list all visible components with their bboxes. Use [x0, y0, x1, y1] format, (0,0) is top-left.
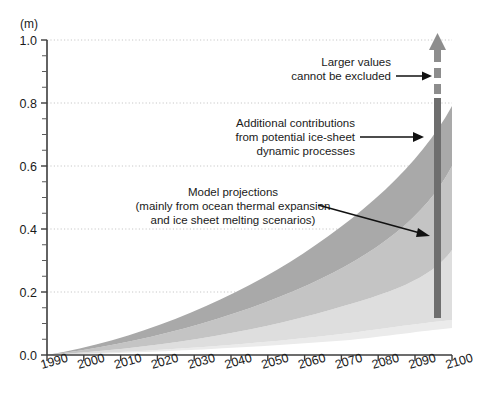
- x-tick-label-2090: 2090: [407, 351, 438, 372]
- y-tick-label-0.8: 0.8: [20, 97, 37, 111]
- projection-bands: [47, 106, 452, 355]
- model-projections-line-1: Model projections: [188, 186, 278, 198]
- additional-contributions-arrow-icon: [360, 132, 424, 142]
- y-tick-label-0.2: 0.2: [20, 286, 37, 300]
- additional-contributions-line-3: dynamic processes: [257, 145, 356, 157]
- x-tick-label-2030: 2030: [186, 351, 217, 372]
- x-tick-label-2070: 2070: [333, 351, 364, 372]
- x-tick-label-2050: 2050: [260, 351, 291, 372]
- additional-contributions-line-1: Additional contributions: [236, 117, 355, 129]
- sea-level-rise-projection-figure: (m) 1.0 0.8 0.6 0.4 0.2 0.0 1990 2000 20…: [0, 0, 477, 403]
- x-tick-label-2100: 2100: [444, 351, 475, 372]
- additional-contributions-annotation: Additional contributions from potential …: [235, 117, 424, 157]
- y-tick-label-0.4: 0.4: [20, 223, 37, 237]
- range-bar: [434, 98, 441, 318]
- y-tick-label-0.6: 0.6: [20, 160, 37, 174]
- larger-values-line-1: Larger values: [321, 56, 391, 68]
- y-tick-label-1.0: 1.0: [20, 34, 37, 48]
- x-tick-label-2010: 2010: [113, 351, 144, 372]
- x-tick-label-1990: 1990: [39, 351, 70, 372]
- larger-values-annotation: Larger values cannot be excluded: [291, 56, 432, 82]
- chart-canvas: (m) 1.0 0.8 0.6 0.4 0.2 0.0 1990 2000 20…: [0, 0, 477, 403]
- range-bar-up-arrow-icon: [429, 33, 446, 62]
- larger-values-line-2: cannot be excluded: [291, 70, 391, 82]
- x-tick-label-2020: 2020: [149, 351, 180, 372]
- larger-values-arrow-icon: [396, 72, 432, 81]
- x-tick-label-2060: 2060: [297, 351, 328, 372]
- model-projections-line-2: (mainly from ocean thermal expansion: [136, 200, 331, 212]
- y-tick-label-0.0: 0.0: [20, 349, 37, 363]
- y-axis-unit-label: (m): [20, 17, 38, 31]
- x-tick-label-2080: 2080: [370, 351, 401, 372]
- range-bar-dash-1: [434, 84, 441, 94]
- x-tick-labels: 1990 2000 2010 2020 2030 2040 2050 2060 …: [39, 351, 475, 372]
- range-bar-dash-2: [434, 68, 441, 78]
- additional-contributions-line-2: from potential ice-sheet: [235, 131, 355, 143]
- model-projections-line-3: and ice sheet melting scenarios): [151, 214, 316, 226]
- x-tick-label-2040: 2040: [223, 351, 254, 372]
